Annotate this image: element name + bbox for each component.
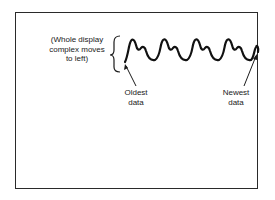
waveform-trace [125,39,258,62]
oldest-arrow [126,66,136,86]
diagram-graphics [0,0,275,200]
curly-brace-icon [110,36,120,72]
